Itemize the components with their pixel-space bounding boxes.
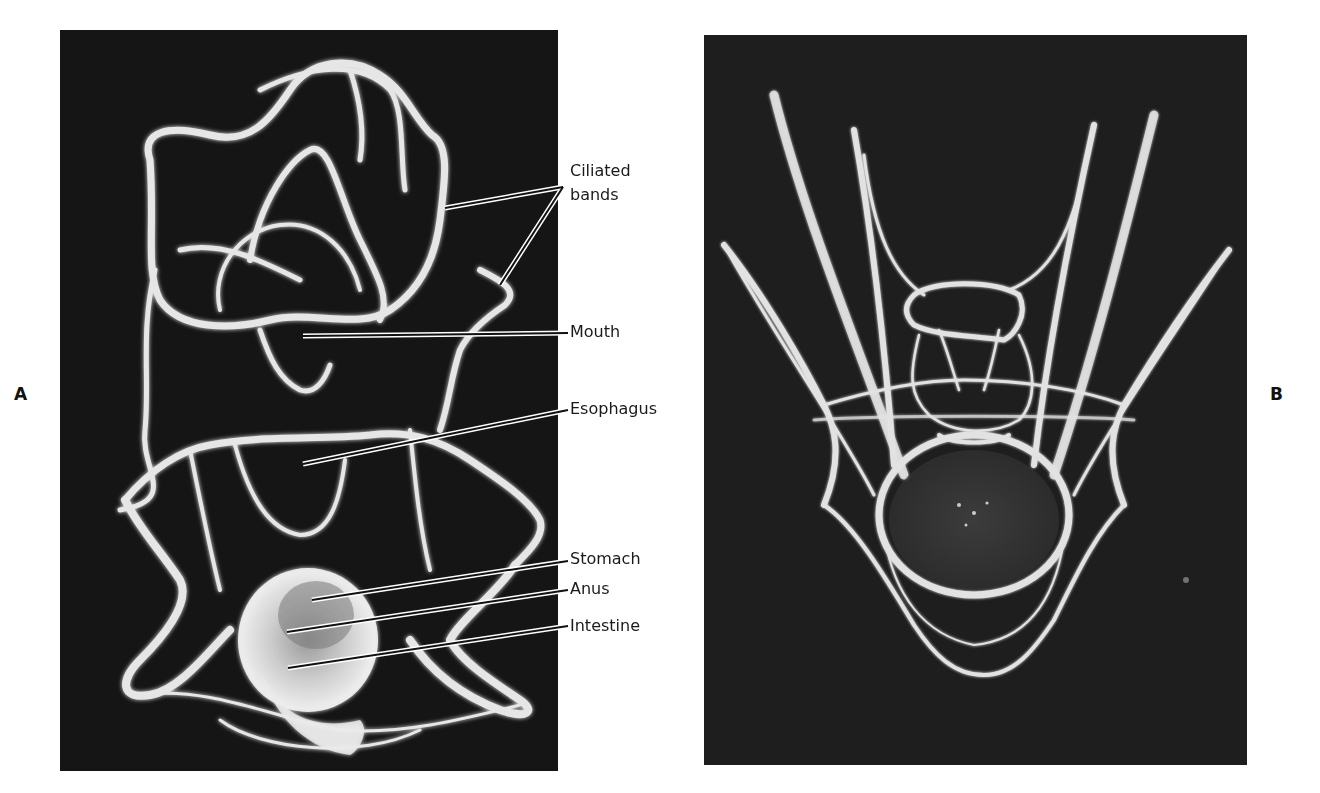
larva-a-illustration	[60, 30, 558, 771]
label-ciliated-bands-line2: bands	[570, 186, 619, 204]
label-intestine: Intestine	[570, 617, 640, 635]
panel-b-photo	[704, 35, 1247, 765]
panel-a-photo	[60, 30, 558, 771]
label-mouth: Mouth	[570, 323, 620, 341]
label-stomach: Stomach	[570, 550, 641, 568]
label-esophagus: Esophagus	[570, 400, 657, 418]
label-ciliated-bands-line1: Ciliated	[570, 162, 631, 180]
panel-letter-b: B	[1270, 384, 1283, 404]
label-anus: Anus	[570, 580, 610, 598]
pluteus-larva-b-illustration	[704, 35, 1247, 765]
panel-letter-a: A	[14, 384, 27, 404]
